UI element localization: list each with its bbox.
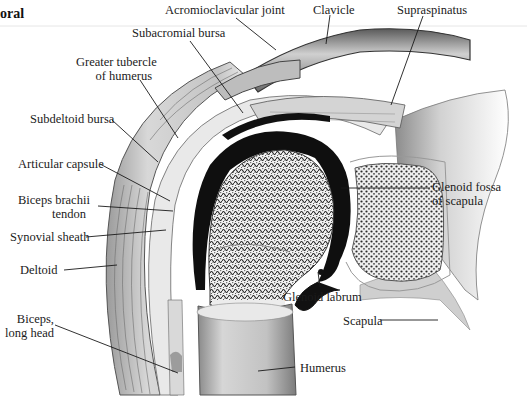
label-biceps-long-line1: Biceps, [0, 312, 54, 326]
label-subdeltoid-bursa: Subdeltoid bursa [30, 112, 114, 126]
label-clavicle: Clavicle [313, 3, 355, 17]
label-biceps-tendon-line2: tendon [18, 207, 86, 221]
label-glenoid-labrum: Glenoid labrum [283, 290, 362, 304]
label-glenoid-fossa-line1: Glenoid fossa [432, 180, 501, 194]
label-acromioclavicular-joint: Acromioclavicular joint [165, 3, 285, 17]
label-articular-capsule: Articular capsule [18, 157, 104, 171]
label-deltoid: Deltoid [20, 263, 58, 277]
label-biceps-tendon-line1: Biceps brachii [18, 193, 86, 207]
page-header-fragment: oral [0, 6, 24, 22]
label-biceps-brachii-tendon: Biceps brachii tendon [18, 193, 86, 221]
shoulder-diagram: oral Acromioclavicular joint Clavicle Su… [0, 0, 527, 403]
label-subacromial-bursa: Subacromial bursa [132, 26, 225, 40]
label-glenoid-fossa: Glenoid fossa of scapula [432, 180, 501, 208]
label-greater-tubercle-line2: of humerus [76, 69, 152, 83]
label-supraspinatus: Supraspinatus [397, 3, 467, 17]
label-scapula: Scapula [343, 314, 383, 328]
label-biceps-long-head: Biceps, long head [0, 312, 54, 340]
label-glenoid-fossa-line2: of scapula [432, 194, 501, 208]
label-biceps-long-line2: long head [0, 326, 54, 340]
label-synovial-sheath: Synovial sheath [10, 230, 90, 244]
label-greater-tubercle-line1: Greater tubercle [76, 55, 152, 69]
label-humerus: Humerus [300, 361, 346, 375]
label-greater-tubercle: Greater tubercle of humerus [76, 55, 152, 83]
